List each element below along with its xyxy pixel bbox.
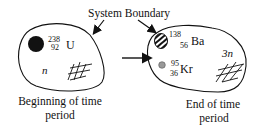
boundary-pointer-arrow-left [94,20,104,33]
u-atomic-number: 92 [51,43,59,52]
neutron-label-after: 3n [221,47,234,59]
ba-symbol: Ba [191,34,205,48]
fission-system-diagram: 238 92 U n 138 56 Ba 3n 95 36 Kr System … [0,0,258,134]
ba-mass-number: 138 [169,30,181,39]
uranium-nucleus-icon [28,36,44,52]
system-boundary-label: System Boundary [88,7,170,20]
crosshatch-icon [216,62,244,82]
left-system-boundary [19,24,105,91]
kr-symbol: Kr [180,62,193,76]
caption-after-line2: period [199,112,229,125]
kr-mass-number: 95 [171,59,179,68]
kr-atomic-number: 36 [170,69,178,78]
caption-before-line1: Beginning of time [18,95,102,108]
neutron-label-before: n [42,64,48,76]
u-symbol: U [66,38,75,52]
caption-before-line2: period [45,109,75,122]
ba-atomic-number: 56 [180,41,188,50]
crosshatch-icon [68,62,92,80]
boundary-pointer-arrow-right [138,20,155,32]
barium-nucleus-icon [155,34,168,49]
caption-after-line1: End of time [186,98,240,110]
krypton-nucleus-icon [159,62,166,69]
